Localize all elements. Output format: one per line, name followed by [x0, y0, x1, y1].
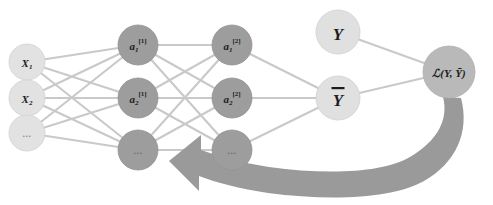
node-label-hidden2-dots: ... [227, 146, 236, 156]
node-label-input-dots: ... [22, 129, 31, 139]
node-label-loss-node: ℒ(Y, Ȳ) [432, 67, 465, 80]
node-hidden2-dots[interactable]: ... [212, 130, 252, 170]
node-hidden1-a1[interactable]: a1[1] [118, 25, 158, 65]
node-label-hidden1-dots: ... [133, 146, 142, 156]
node-label-output-y-true: Y [333, 25, 345, 44]
node-hidden1-dots[interactable]: ... [118, 130, 158, 170]
node-label-output-y-pred: Y [333, 91, 345, 110]
node-input-x1[interactable]: X1 [9, 44, 45, 80]
node-input-dots[interactable]: ... [9, 115, 45, 151]
nodes-group: X1X2...a1[1]a2[1]...a1[2]a2[2]...YYℒ(Y, … [9, 10, 475, 170]
node-output-y-true[interactable]: Y [316, 10, 360, 54]
node-loss-node[interactable]: ℒ(Y, Ȳ) [423, 46, 475, 98]
node-hidden1-a2[interactable]: a2[1] [118, 78, 158, 118]
node-output-y-pred[interactable]: Y [316, 76, 360, 120]
network-canvas: X1X2...a1[1]a2[1]...a1[2]a2[2]...YYℒ(Y, … [0, 0, 493, 205]
node-hidden2-a1[interactable]: a1[2] [212, 25, 252, 65]
node-input-x2[interactable]: X2 [9, 80, 45, 116]
overbar-output-y-pred [332, 87, 345, 89]
neural-network-diagram: X1X2...a1[1]a2[1]...a1[2]a2[2]...YYℒ(Y, … [0, 0, 493, 205]
node-hidden2-a2[interactable]: a2[2] [212, 78, 252, 118]
